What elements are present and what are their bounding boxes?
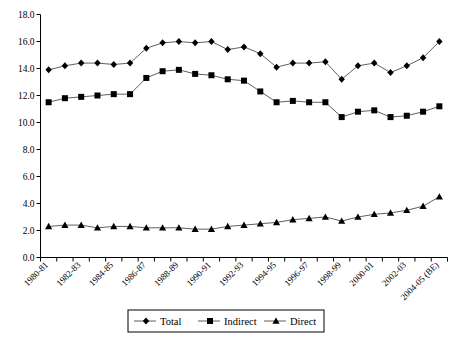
- y-axis-tick-label: 8.0: [23, 145, 35, 155]
- series-indirect: [46, 67, 443, 120]
- x-axis-tick-label: 1980-81: [22, 260, 50, 288]
- y-axis-tick-label: 16.0: [18, 37, 35, 47]
- data-point-marker-square: [388, 114, 394, 120]
- x-axis-tick-label: 1984-85: [87, 259, 116, 288]
- data-point-marker-diamond: [62, 62, 68, 69]
- x-axis-tick-label: 1982-83: [54, 259, 83, 288]
- y-axis-tick-label: 6.0: [23, 172, 35, 182]
- x-axis-tick-label: 1986-87: [119, 259, 148, 288]
- data-point-marker-diamond: [371, 60, 377, 67]
- data-point-marker-diamond: [387, 69, 393, 76]
- data-point-marker-square: [160, 68, 166, 74]
- data-point-marker-square: [192, 71, 198, 77]
- data-point-marker-diamond: [111, 61, 117, 68]
- legend-item-indirect[interactable]: Indirect: [198, 316, 257, 327]
- line-chart: 0.02.04.06.08.010.012.014.016.018.01980-…: [0, 0, 451, 349]
- data-point-marker-square: [436, 103, 442, 109]
- data-point-marker-square: [371, 107, 377, 113]
- chart-container: 0.02.04.06.08.010.012.014.016.018.01980-…: [0, 0, 451, 349]
- data-point-marker-diamond: [94, 60, 100, 67]
- x-axis-tick-label: 1996-97: [282, 259, 311, 288]
- data-point-marker-square: [339, 114, 345, 120]
- data-point-marker-square: [420, 109, 426, 115]
- data-point-marker-diamond: [273, 64, 279, 71]
- data-point-marker-diamond: [208, 38, 214, 45]
- data-point-marker-diamond: [241, 43, 247, 50]
- legend-label: Total: [160, 316, 182, 327]
- series-direct: [45, 193, 443, 232]
- data-point-marker-square: [62, 95, 68, 101]
- y-axis-tick-label: 12.0: [18, 91, 35, 101]
- data-point-marker-diamond: [257, 50, 263, 57]
- data-point-marker-diamond: [78, 60, 84, 67]
- data-point-marker-square: [143, 75, 149, 81]
- data-point-marker-square: [257, 88, 263, 94]
- data-point-marker-diamond: [290, 60, 296, 67]
- data-point-marker-square: [78, 94, 84, 100]
- data-point-marker-square: [322, 99, 328, 105]
- legend-label: Indirect: [224, 316, 257, 327]
- data-point-marker-square: [111, 91, 117, 97]
- data-point-marker-square: [355, 109, 361, 115]
- y-axis-tick-label: 4.0: [23, 199, 35, 209]
- data-point-marker-square: [274, 99, 280, 105]
- data-point-marker-diamond: [176, 38, 182, 45]
- series-total: [45, 38, 442, 83]
- x-axis-tick-label: 1988-89: [152, 259, 181, 288]
- data-point-marker-diamond: [306, 60, 312, 67]
- x-axis-tick-label: 1992-93: [217, 259, 246, 288]
- x-axis-tick-label: 1994-95: [250, 259, 279, 288]
- data-point-marker-square: [94, 93, 100, 99]
- data-point-marker-diamond: [159, 39, 165, 46]
- y-axis-tick-label: 0.0: [23, 253, 35, 263]
- data-point-marker-square: [306, 99, 312, 105]
- x-axis-tick-label: 2002-03: [380, 259, 409, 288]
- y-axis-tick-label: 2.0: [23, 226, 35, 236]
- data-point-marker-square: [225, 76, 231, 82]
- data-point-marker-square: [127, 91, 133, 97]
- legend: TotalIndirectDirect: [128, 310, 324, 332]
- data-point-marker-diamond: [45, 66, 51, 73]
- x-axis-tick-label: 1990-91: [185, 260, 213, 288]
- data-point-marker-diamond: [143, 318, 149, 325]
- y-axis-tick-label: 18.0: [18, 10, 35, 20]
- x-axis-tick-label: 1998-99: [315, 259, 344, 288]
- data-point-marker-diamond: [404, 62, 410, 69]
- data-point-marker-square: [207, 318, 213, 324]
- data-point-marker-triangle: [436, 193, 443, 199]
- data-point-marker-square: [46, 99, 52, 105]
- y-axis-tick-label: 14.0: [18, 64, 35, 74]
- legend-item-direct[interactable]: Direct: [264, 316, 316, 327]
- data-point-marker-diamond: [225, 46, 231, 53]
- data-point-marker-square: [176, 67, 182, 73]
- data-point-marker-diamond: [192, 39, 198, 46]
- x-axis-tick-label: 2000-01: [347, 260, 375, 288]
- data-point-marker-diamond: [355, 62, 361, 69]
- legend-label: Direct: [290, 316, 316, 327]
- legend-item-total[interactable]: Total: [134, 316, 182, 327]
- data-point-marker-triangle: [322, 213, 329, 219]
- y-axis-tick-label: 10.0: [18, 118, 35, 128]
- data-point-marker-square: [404, 113, 410, 119]
- data-point-marker-square: [290, 98, 296, 104]
- data-point-marker-triangle: [419, 203, 426, 209]
- series-line-indirect: [49, 70, 440, 117]
- data-point-marker-square: [241, 78, 247, 84]
- data-point-marker-square: [208, 72, 214, 78]
